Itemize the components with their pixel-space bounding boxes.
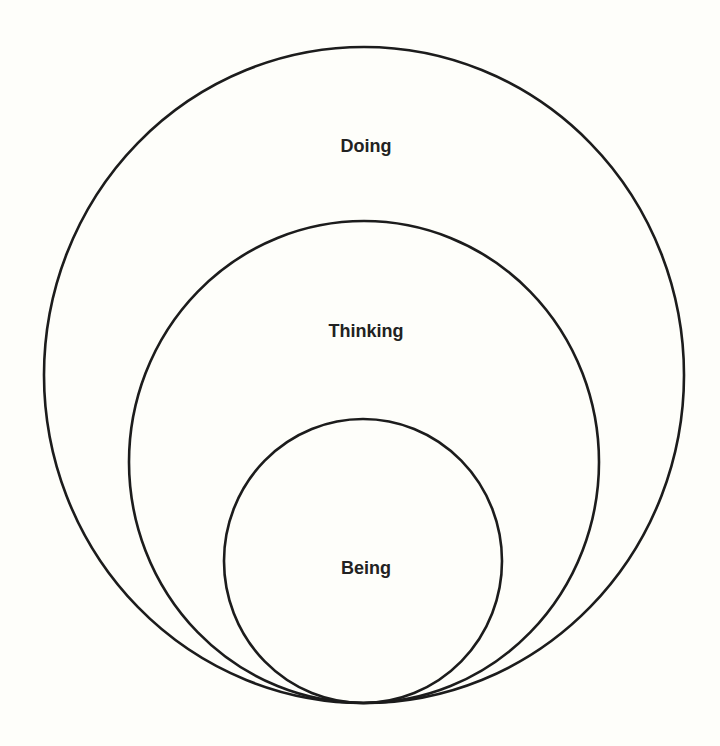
circle-thinking [129, 221, 599, 703]
label-doing: Doing [341, 136, 392, 156]
label-being: Being [341, 558, 391, 578]
ring-being: Being [224, 419, 502, 703]
nested-circles-diagram: Doing Thinking Being [0, 0, 720, 746]
ring-thinking: Thinking [129, 221, 599, 703]
label-thinking: Thinking [329, 321, 404, 341]
ring-doing: Doing [44, 47, 684, 703]
diagram-canvas: Doing Thinking Being [0, 0, 720, 746]
